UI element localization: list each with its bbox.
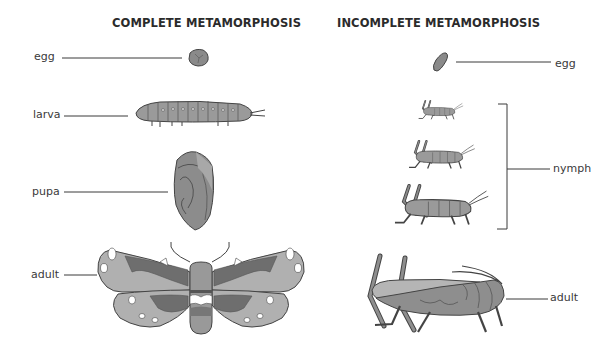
moth-egg-icon xyxy=(189,49,208,66)
grasshopper-egg-icon xyxy=(433,53,447,71)
moth-adult-icon xyxy=(98,242,304,334)
caterpillar-larva-icon xyxy=(136,101,265,127)
nymph-bracket xyxy=(497,104,507,229)
metamorphosis-diagram xyxy=(0,0,615,350)
nymph-medium-icon xyxy=(409,141,475,168)
grasshopper-adult-icon xyxy=(370,256,504,332)
nymph-large-icon xyxy=(395,186,488,225)
pupa-chrysalis-icon xyxy=(174,152,213,230)
nymph-small-icon xyxy=(419,101,464,119)
